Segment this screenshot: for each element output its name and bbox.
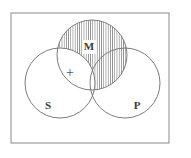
circle-label-p: P xyxy=(134,99,141,111)
m-minus-s-shaded-region xyxy=(0,0,191,158)
circle-label-s: S xyxy=(45,99,51,111)
venn-diagram-figure: M S P + xyxy=(0,0,191,158)
circle-label-m: M xyxy=(84,40,95,52)
existential-plus-mark: + xyxy=(66,65,74,80)
venn-diagram-canvas: M S P + xyxy=(0,0,191,158)
